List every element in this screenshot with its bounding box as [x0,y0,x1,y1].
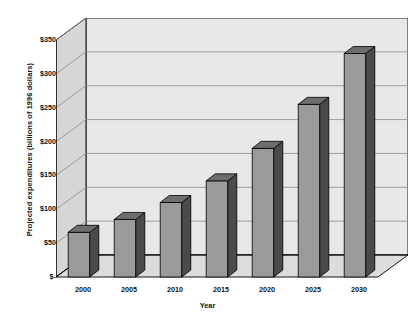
x-axis-tick-labels: 2000200520102015202020252030 [56,285,408,297]
x-tick-label: 2000 [63,285,103,294]
y-tick-label: $300 [20,70,56,78]
y-tick-label: $350 [20,36,56,44]
x-tick-label: 2010 [155,285,195,294]
bar-2010 [160,196,191,277]
x-tick-label: 2025 [293,285,333,294]
bar-2005 [114,212,145,277]
y-axis-tick-labels: $-$50$100$150$200$250$300$350 [20,0,56,319]
plot-area [56,18,408,284]
y-tick-label: $250 [20,104,56,112]
bar-2015 [206,174,237,277]
y-tick-label: $100 [20,205,56,213]
bar-2030 [344,47,375,277]
bar-2020 [252,141,283,277]
y-tick-label: $200 [20,138,56,146]
y-tick-label: $- [20,273,56,281]
x-tick-label: 2015 [201,285,241,294]
y-tick-label: $50 [20,239,56,247]
x-tick-label: 2005 [109,285,149,294]
bar-2025 [298,97,329,277]
x-axis-title: Year [0,301,415,310]
bar-chart: Projected expenditures (billions of 1996… [0,0,415,319]
bar-2000 [68,225,99,277]
plot-graphics [56,18,408,284]
x-tick-label: 2030 [339,285,379,294]
y-tick-label: $150 [20,171,56,179]
x-tick-label: 2020 [247,285,287,294]
